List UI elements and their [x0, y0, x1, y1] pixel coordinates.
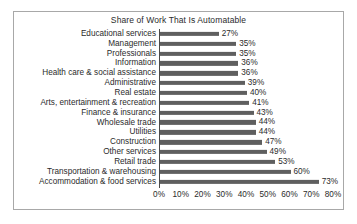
category-label: Information	[115, 59, 156, 67]
category-label: Health care & social assistance	[42, 69, 156, 77]
bar-track: 44%	[160, 127, 343, 137]
bar-row: Other services49%	[14, 147, 343, 157]
chart-frame: Share of Work That Is Automatable Educat…	[13, 11, 344, 210]
bar-track: 35%	[160, 39, 343, 49]
plot-area: Educational services27%Management35%Prof…	[14, 29, 343, 189]
bar	[160, 91, 247, 95]
category-label: Real estate	[115, 89, 156, 97]
bar-row: Professionals35%	[14, 49, 343, 59]
bar-value-label: 47%	[265, 138, 281, 146]
bar-track: 41%	[160, 98, 343, 108]
bar	[160, 130, 256, 134]
category-label: Utilities	[130, 128, 156, 136]
bar-value-label: 43%	[257, 109, 273, 117]
bar	[160, 110, 254, 114]
category-label: Management	[108, 40, 156, 48]
bar	[160, 61, 238, 65]
bar-track: 36%	[160, 68, 343, 78]
bar-row: Educational services27%	[14, 29, 343, 39]
bar-track: 53%	[160, 157, 343, 167]
bar-row: Utilities44%	[14, 127, 343, 137]
x-tick-label: 50%	[260, 191, 276, 199]
bar-track: 44%	[160, 118, 343, 128]
bar-track: 47%	[160, 137, 343, 147]
bar	[160, 51, 236, 55]
x-tick-label: 20%	[194, 191, 210, 199]
bar-row: Information36%	[14, 59, 343, 69]
category-label: Arts, entertainment & recreation	[40, 99, 156, 107]
bar-value-label: 27%	[222, 30, 238, 38]
bar-row: Health care & social assistance36%	[14, 68, 343, 78]
category-label: Construction	[110, 138, 156, 146]
bar-row: Transportation & warehousing60%	[14, 167, 343, 177]
bar-track: 49%	[160, 147, 343, 157]
bar-value-label: 49%	[270, 148, 286, 156]
bar-track: 40%	[160, 88, 343, 98]
bar-track: 73%	[160, 177, 343, 187]
bar	[160, 81, 245, 85]
bar-track: 27%	[160, 29, 343, 39]
bar-value-label: 39%	[248, 79, 264, 87]
bar-row: Construction47%	[14, 137, 343, 147]
bar-value-label: 40%	[250, 89, 266, 97]
bar-value-label: 73%	[322, 177, 338, 185]
x-tick-label: 60%	[281, 191, 297, 199]
bar-rows: Educational services27%Management35%Prof…	[14, 29, 343, 187]
bar	[160, 42, 236, 46]
category-label: Transportation & warehousing	[47, 168, 156, 176]
x-tick-label: 40%	[238, 191, 254, 199]
category-label: Professionals	[107, 50, 156, 58]
bar-track: 60%	[160, 167, 343, 177]
bar-row: Accommodation & food services73%	[14, 177, 343, 187]
bar-track: 43%	[160, 108, 343, 118]
bar-value-label: 53%	[278, 158, 294, 166]
bar-value-label: 35%	[239, 50, 255, 58]
x-tick-label: 70%	[303, 191, 319, 199]
category-label: Other services	[103, 148, 156, 156]
x-tick-label: 10%	[173, 191, 189, 199]
bar	[160, 170, 291, 174]
bar-row: Management35%	[14, 39, 343, 49]
category-label: Educational services	[81, 30, 156, 38]
x-tick-label: 30%	[216, 191, 232, 199]
bar	[160, 71, 238, 75]
bar-value-label: 35%	[239, 40, 255, 48]
bar-value-label: 60%	[294, 168, 310, 176]
bar-value-label: 36%	[241, 59, 257, 67]
category-label: Finance & insurance	[81, 109, 156, 117]
x-axis: 0%10%20%30%40%50%60%70%80%	[14, 191, 343, 205]
bar-track: 39%	[160, 78, 343, 88]
bar-track: 36%	[160, 59, 343, 69]
chart-title: Share of Work That Is Automatable	[14, 15, 343, 25]
bar	[160, 150, 267, 154]
category-label: Accommodation & food services	[39, 177, 156, 185]
bar-row: Retail trade53%	[14, 157, 343, 167]
category-label: Retail trade	[114, 158, 156, 166]
x-tick-label: 80%	[325, 191, 341, 199]
bar-value-label: 44%	[259, 118, 275, 126]
bar-track: 35%	[160, 49, 343, 59]
category-label: Wholesale trade	[97, 118, 156, 126]
bar	[160, 140, 262, 144]
bar-value-label: 36%	[241, 69, 257, 77]
bar-value-label: 41%	[252, 99, 268, 107]
bar-value-label: 44%	[259, 128, 275, 136]
bar	[160, 120, 256, 124]
bar-row: Arts, entertainment & recreation41%	[14, 98, 343, 108]
bar	[160, 179, 319, 183]
bar	[160, 160, 275, 164]
bar-row: Finance & insurance43%	[14, 108, 343, 118]
bar	[160, 32, 219, 36]
bar-row: Real estate40%	[14, 88, 343, 98]
x-tick-label: 0%	[153, 191, 165, 199]
bar-row: Administrative39%	[14, 78, 343, 88]
bar	[160, 101, 249, 105]
category-label: Administrative	[105, 79, 156, 87]
bar-row: Wholesale trade44%	[14, 118, 343, 128]
